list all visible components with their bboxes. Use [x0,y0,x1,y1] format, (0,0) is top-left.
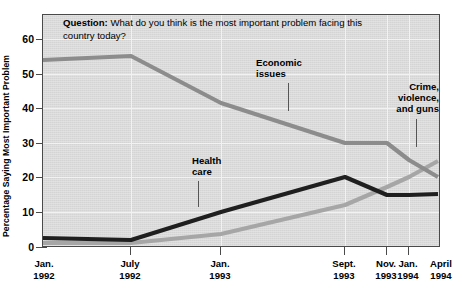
annotation-health-care-line-2: care [192,166,221,177]
y-tick-label-50: 50 [8,68,34,80]
x-tick-label-april-1994-month: April [421,258,461,270]
y-tick-label-40: 40 [8,102,34,114]
annotation-economic-issues: Economic issues [256,57,302,79]
chart-figure: Percentage Saying Most Important Problem… [0,0,463,291]
x-tick-mark-jan-1993 [220,247,221,255]
annotation-economic-issues-line-2: issues [256,68,302,79]
x-tick-label-april-1994-year: 1994 [421,270,461,282]
series-lines [43,15,440,247]
y-tick-label-10: 10 [8,206,34,218]
annotation-health-care: Health care [192,155,221,177]
y-tick-label-20: 20 [8,171,34,183]
x-tick-label-sept-1993-month: Sept. [324,258,364,270]
x-tick-mark-sept-1993 [344,247,345,255]
x-tick-label-jan-1993-month: Jan. [200,258,240,270]
annotation-health-care-line-1: Health [192,155,221,166]
series-line-economic [43,56,438,177]
annotation-crime-line-1: Crime, [373,81,439,92]
y-tick-label-60: 60 [8,33,34,45]
x-tick-label-july-1992: July 1992 [110,258,150,281]
x-tick-mark-july-1992 [130,247,131,255]
x-tick-label-sept-1993-year: 1993 [324,270,364,282]
annotation-crime-line-3: and guns [373,103,439,114]
annotation-economic-issues-line-1: Economic [256,57,302,68]
x-tick-label-jan-1992-month: Jan. [24,258,64,270]
x-tick-label-sept-1993: Sept. 1993 [324,258,364,281]
question-text: Question: What do you think is the most … [63,17,368,42]
plot-area: Question: What do you think is the most … [42,14,440,247]
x-tick-label-jan-1993-year: 1993 [200,270,240,282]
annotation-crime-leader [416,119,417,147]
annotation-crime-line-2: violence, [373,92,439,103]
x-tick-label-july-1992-year: 1992 [110,270,150,282]
x-tick-label-jan-1993: Jan. 1993 [200,258,240,281]
annotation-economic-issues-leader [288,83,289,111]
x-tick-label-july-1992-month: July [110,258,150,270]
y-tick-mark-0 [36,247,47,248]
series-line-crime [43,161,438,243]
annotation-health-care-leader [198,181,199,207]
annotation-crime-violence-guns: Crime, violence, and guns [373,81,439,114]
question-body: What do you think is the most important … [63,17,362,41]
x-tick-label-jan-1992-year: 1992 [24,270,64,282]
question-label: Question: [63,17,108,28]
x-tick-mark-jan-1994 [408,247,409,255]
x-tick-label-april-1994: April 1994 [421,258,461,281]
x-tick-mark-nov-1993 [386,247,387,255]
x-tick-label-jan-1992: Jan. 1992 [24,258,64,281]
y-tick-label-30: 30 [8,137,34,149]
y-tick-label-0: 0 [8,241,34,253]
